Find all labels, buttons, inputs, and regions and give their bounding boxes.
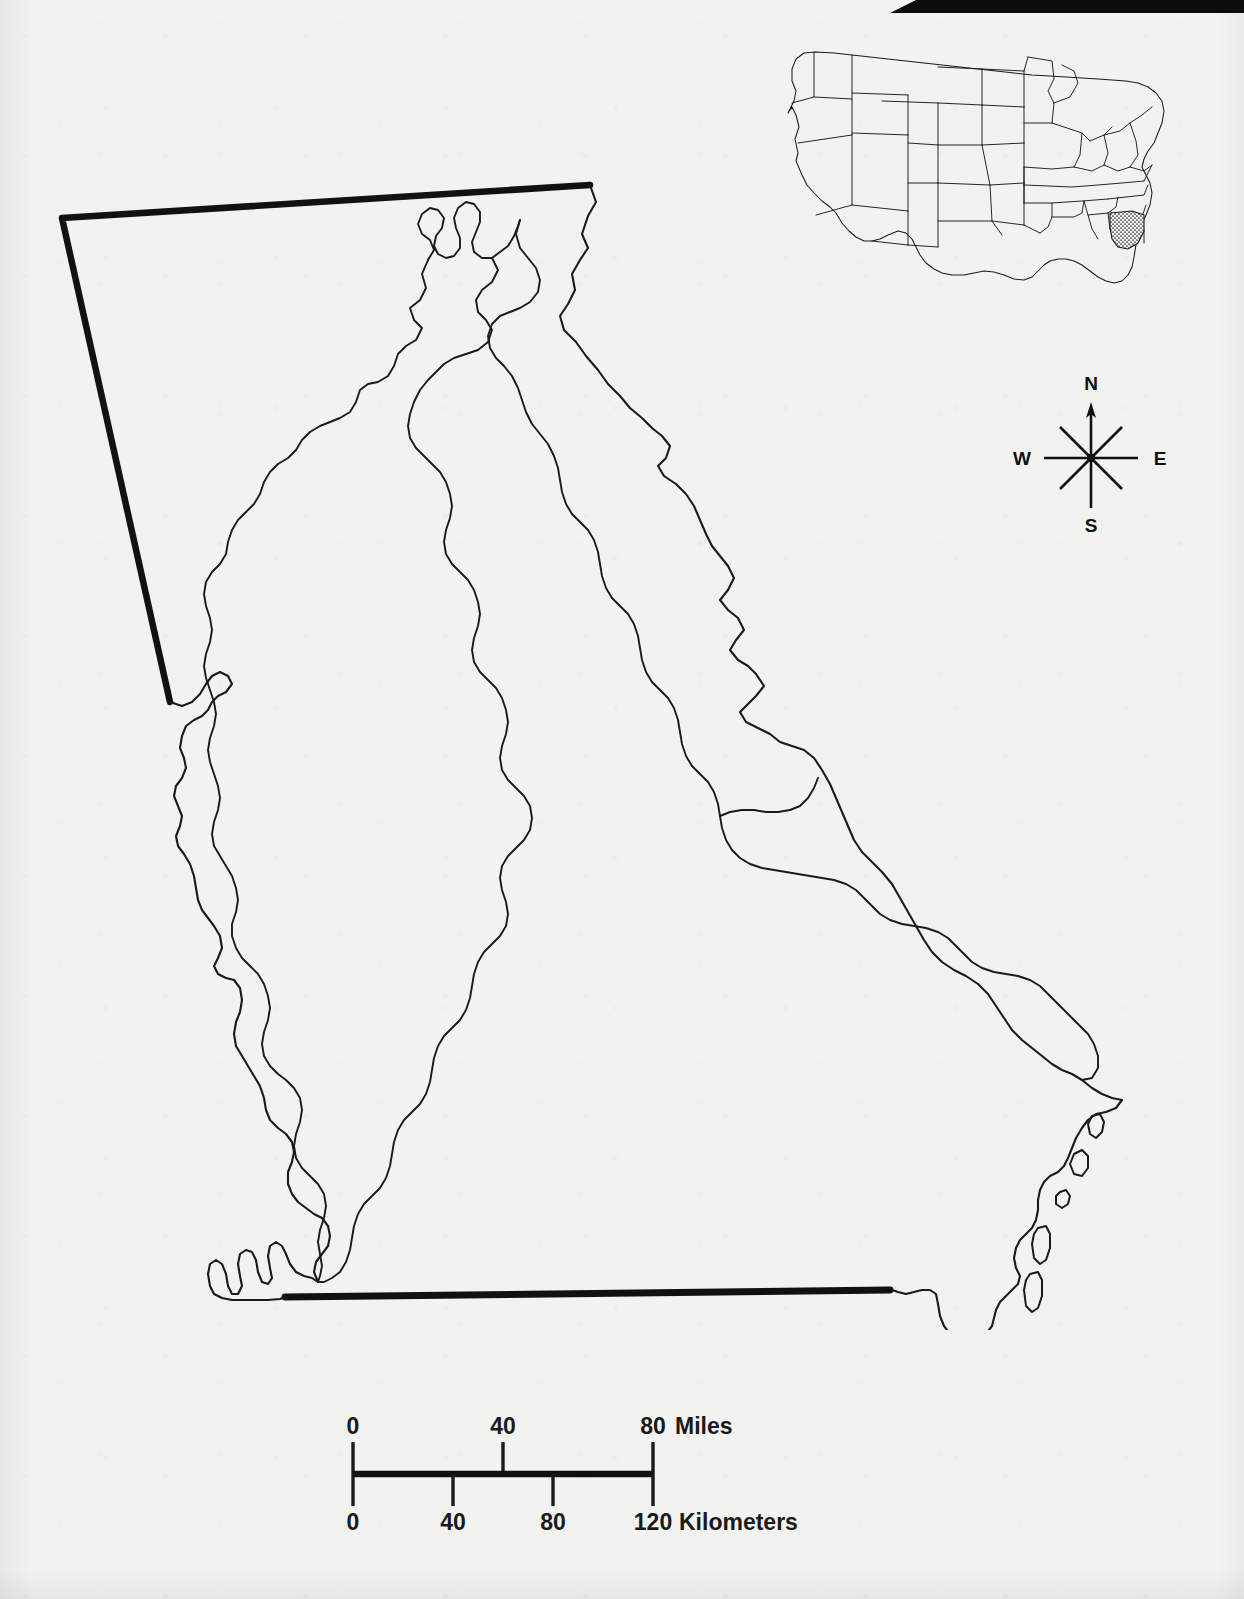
scale-bar: 0 40 80 Miles 0 40 80 120 (345, 1412, 815, 1532)
state-boundary-south (285, 1290, 890, 1297)
scale-kilometers-ticks (353, 1474, 653, 1506)
georgia-map-svg (30, 150, 1160, 1330)
basin-divide-chattahoochee-flint (204, 260, 428, 1282)
basin-divide-ogeechee (720, 778, 818, 816)
scanner-black-bar-artifact (890, 0, 1244, 13)
scale-km-tick-40: 40 (440, 1509, 466, 1532)
scale-miles-tick-80: 80 (640, 1413, 666, 1439)
boundary-chattahoochee-river (170, 672, 330, 1282)
barrier-islands (1024, 1114, 1104, 1312)
georgia-state-map (30, 150, 1160, 1330)
scale-km-tick-0: 0 (347, 1509, 360, 1532)
scale-miles-unit-label: Miles (675, 1413, 733, 1439)
basin-divide-center-north-link (492, 220, 520, 258)
scale-km-tick-120: 120 (634, 1509, 672, 1532)
state-boundary-north-and-northwest (62, 185, 590, 702)
basin-divide-ocmulgee-oconee (488, 220, 1098, 1080)
boundary-southeast-tail (892, 1290, 992, 1330)
scale-miles-tick-0: 0 (347, 1413, 360, 1439)
basin-divide-north-headwaters (418, 202, 492, 260)
map-page: N S E W (0, 0, 1244, 1599)
boundary-savannah-river (560, 185, 1082, 1080)
scale-kilometers-unit-label: Kilometers (679, 1509, 798, 1532)
boundary-southwest-corner (208, 1242, 318, 1300)
scale-miles-ticks (353, 1442, 653, 1474)
scale-miles-tick-40: 40 (490, 1413, 516, 1439)
scale-bar-svg: 0 40 80 Miles 0 40 80 120 (345, 1412, 815, 1532)
scale-km-tick-80: 80 (540, 1509, 566, 1532)
